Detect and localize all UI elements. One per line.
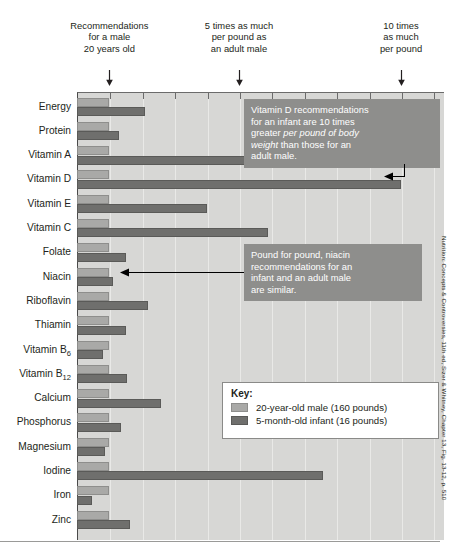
legend-label-infant: 5-month-old infant (16 pounds) — [256, 415, 387, 426]
bar-infant-vitamin-e — [77, 204, 207, 213]
bar-infant-iron — [77, 496, 92, 505]
bar-infant-thiamin — [77, 326, 126, 335]
bar-infant-phosphorus — [77, 423, 121, 432]
chart-row-label-vitamin-d: Vitamin D — [0, 173, 71, 184]
bar-infant-calcium — [77, 399, 161, 408]
callout-vitamin-d-line-4b: than those for an — [278, 139, 351, 150]
callout-vitamin-d: Vitamin D recommendations for an infant … — [244, 99, 440, 168]
bar-adult-vitamin-a — [77, 146, 109, 155]
chart-axis-tick — [175, 93, 176, 99]
callout-niacin-line-3: infant and an adult male — [251, 272, 351, 283]
chart-row-label-zinc: Zinc — [0, 514, 71, 525]
chart-row-label-vitamin-b12: Vitamin B12 — [0, 368, 71, 382]
chart-axis-tick — [110, 93, 111, 99]
bar-adult-calcium — [77, 389, 109, 398]
bar-adult-riboflavin — [77, 292, 109, 301]
bar-infant-riboflavin — [77, 301, 148, 310]
chart-row-label-folate: Folate — [0, 246, 71, 257]
bar-adult-zinc — [77, 511, 109, 520]
chart-row-label-thiamin: Thiamin — [0, 319, 71, 330]
callout-vitamin-d-line-3b: per pound of body — [283, 127, 359, 138]
chart-row-label-energy: Energy — [0, 101, 71, 112]
chart-row-label-vitamin-c: Vitamin C — [0, 222, 71, 233]
bar-adult-niacin — [77, 268, 109, 277]
callout-niacin-leader-horizontal — [128, 272, 244, 273]
bar-infant-magnesium — [77, 447, 105, 456]
callout-vitamin-d-line-1: Vitamin D recommendations — [251, 104, 369, 115]
bar-adult-magnesium — [77, 438, 109, 447]
chart-row-label-vitamin-e: Vitamin E — [0, 198, 71, 209]
callout-vitamin-d-arrowhead — [384, 172, 393, 181]
bar-adult-protein — [77, 122, 109, 131]
chart-row-label-protein: Protein — [0, 125, 71, 136]
callout-vitamin-d-line-3a: greater — [251, 127, 283, 138]
chart-row-label-vitamin-b6: Vitamin B6 — [0, 344, 71, 358]
bar-adult-vitamin-c — [77, 219, 109, 228]
callout-niacin-line-2: recommendations for an — [251, 261, 352, 272]
chart-axis-tick — [240, 93, 241, 99]
legend-entry-adult: 20-year-old male (160 pounds) — [231, 402, 430, 413]
bar-infant-niacin — [77, 277, 113, 286]
bar-adult-vitamin-b6 — [77, 341, 109, 350]
bar-adult-iron — [77, 486, 109, 495]
legend-label-adult: 20-year-old male (160 pounds) — [256, 402, 387, 413]
bar-adult-folate — [77, 243, 109, 252]
bar-adult-vitamin-d — [77, 170, 109, 179]
chart-row-label-niacin: Niacin — [0, 271, 71, 282]
nutrient-recommendations-figure: Recommendations for a male 20 years old … — [0, 0, 472, 553]
callout-niacin-line-4: are similar. — [251, 284, 296, 295]
figure-bottom-rule — [0, 541, 440, 542]
chart-row-label-vitamin-a: Vitamin A — [0, 149, 71, 160]
source-credit: Nutrition: Concepts & Controversies, 11t… — [441, 236, 448, 500]
chart-legend: Key: 20-year-old male (160 pounds) 5-mon… — [222, 382, 439, 439]
legend-title: Key: — [231, 388, 430, 399]
chart-row-label-magnesium: Magnesium — [0, 441, 71, 452]
chart-axis-tick — [143, 93, 144, 99]
down-arrow-icon — [105, 70, 114, 86]
bar-adult-vitamin-b12 — [77, 365, 109, 374]
bar-infant-energy — [77, 107, 145, 116]
bar-infant-folate — [77, 253, 126, 262]
bar-infant-protein — [77, 131, 119, 140]
callout-vitamin-d-line-2: for an infant are 10 times — [251, 116, 355, 127]
bar-adult-energy — [77, 98, 109, 107]
legend-swatch-adult — [231, 403, 248, 412]
bar-infant-vitamin-c — [77, 228, 268, 237]
bar-adult-iodine — [77, 462, 109, 471]
down-arrow-icon — [235, 70, 244, 86]
bar-infant-vitamin-a — [77, 156, 255, 165]
bar-adult-thiamin — [77, 316, 109, 325]
callout-vitamin-d-line-4a: weight — [251, 139, 278, 150]
callout-niacin: Pound for pound, niacin recommendations … — [244, 244, 422, 301]
header-annotation-one-times: Recommendations for a male 20 years old — [50, 20, 168, 54]
chart-row-label-riboflavin: Riboflavin — [0, 295, 71, 306]
callout-vitamin-d-line-5: adult male. — [251, 150, 297, 161]
chart-row-label-iron: Iron — [0, 489, 71, 500]
bar-infant-vitamin-b6 — [77, 350, 103, 359]
chart-row-label-iodine: Iodine — [0, 465, 71, 476]
callout-vitamin-d-leader-horizontal — [392, 176, 405, 177]
bar-infant-zinc — [77, 520, 130, 529]
bar-adult-vitamin-e — [77, 195, 109, 204]
legend-swatch-infant — [231, 416, 248, 425]
callout-niacin-arrowhead — [120, 268, 129, 277]
bar-infant-vitamin-b12 — [77, 374, 127, 383]
bar-infant-vitamin-d — [77, 180, 401, 189]
callout-niacin-line-1: Pound for pound, niacin — [251, 249, 350, 260]
legend-entry-infant: 5-month-old infant (16 pounds) — [231, 415, 430, 426]
chart-row-label-phosphorus: Phosphorus — [0, 416, 71, 427]
bar-infant-iodine — [77, 471, 323, 480]
chart-row-label-calcium: Calcium — [0, 392, 71, 403]
bar-adult-phosphorus — [77, 413, 109, 422]
down-arrow-icon — [397, 70, 406, 86]
chart-axis-tick — [208, 93, 209, 99]
header-annotation-ten-times: 10 times as much per pound — [359, 20, 443, 54]
header-annotation-five-times: 5 times as much per pound as an adult ma… — [187, 20, 291, 54]
